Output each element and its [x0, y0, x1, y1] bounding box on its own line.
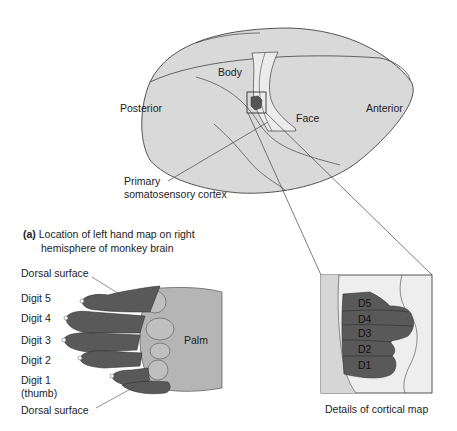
digit-5-shape: [82, 286, 160, 312]
palm-label: Palm: [184, 334, 208, 346]
knuckle-pad: [148, 360, 168, 380]
detail-caption: Details of cortical map: [325, 403, 428, 415]
dorsal-surface-top-label: Dorsal surface: [21, 267, 89, 279]
digit-3-shape: [64, 333, 140, 352]
digit-5-label: Digit 5: [21, 292, 51, 304]
thumb-label: (thumb): [21, 387, 57, 399]
nail: [64, 316, 68, 320]
map-label-d5: D5: [358, 297, 371, 309]
map-label-d1: D1: [358, 359, 371, 371]
caption-line1: Location of left hand map on right: [39, 228, 195, 240]
figure-caption: (a) Location of left hand map on right: [23, 228, 195, 241]
map-label-d4: D4: [358, 313, 371, 325]
caption-line2: hemisphere of monkey brain: [41, 242, 174, 255]
face-label: Face: [296, 112, 319, 124]
nail: [78, 356, 82, 360]
nail: [80, 299, 84, 303]
body-label: Body: [218, 66, 242, 78]
dorsal-surface-bottom-label: Dorsal surface: [21, 404, 89, 416]
anterior-label: Anterior: [366, 102, 403, 114]
cortex-label-line1: Primary: [124, 175, 160, 187]
knuckle-pad: [150, 343, 170, 359]
cortex-label-line2: somatosensory cortex: [124, 188, 227, 200]
knuckle-pad: [146, 318, 174, 340]
digit-1-label: Digit 1: [21, 374, 51, 386]
digit-3-label: Digit 3: [21, 334, 51, 346]
map-label-d3: D3: [358, 327, 371, 339]
map-label-d2: D2: [358, 343, 371, 355]
digit-2-label: Digit 2: [21, 354, 51, 366]
panel-letter: (a): [23, 228, 36, 240]
nail: [110, 374, 114, 378]
digit-4-label: Digit 4: [21, 312, 51, 324]
dorsal-bottom-pointer: [96, 386, 136, 408]
nail: [62, 338, 66, 342]
dorsal-top-pointer: [92, 277, 124, 297]
digit-4-shape: [66, 311, 145, 333]
cortical-map-detail: [321, 275, 432, 393]
hand-region-blob: [251, 96, 262, 110]
posterior-label: Posterior: [120, 102, 162, 114]
figure-canvas: [0, 0, 457, 431]
thumb-dorsal-shape: [122, 381, 170, 394]
digit-2-shape: [80, 351, 142, 368]
